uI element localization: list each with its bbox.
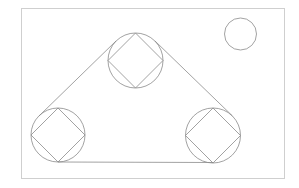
left-belt — [39, 41, 116, 116]
pulley-circle — [31, 108, 85, 162]
pulleys — [31, 33, 241, 163]
pulley-circle — [108, 33, 163, 88]
pulley-circle — [186, 108, 241, 163]
pulley-left — [31, 108, 85, 162]
belt-lines — [39, 41, 233, 163]
small-circle — [225, 18, 257, 50]
frame-border — [22, 9, 285, 179]
right-belt — [155, 41, 233, 116]
pulley-top — [108, 33, 163, 88]
pulley-right — [186, 108, 241, 163]
bottom-belt — [58, 162, 213, 163]
diagram-canvas — [0, 0, 299, 188]
